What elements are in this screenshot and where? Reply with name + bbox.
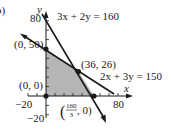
svg-text:3: 3: [70, 111, 74, 119]
y-tick-neg20: −20: [27, 112, 45, 124]
vertex-label-0-0: (0, 0): [19, 79, 43, 92]
linear-programming-graph: b) y x 80 −20 −20 80 3x + 2y = 160 2x + …: [0, 0, 173, 136]
vertex-0-50: [43, 46, 48, 51]
arrowhead-icon: [101, 115, 107, 124]
x-axis-label: x: [123, 82, 129, 94]
panel-label: b): [0, 4, 6, 17]
x-tick-neg20: −20: [15, 98, 33, 110]
vertex-label-0-50: (0, 50): [14, 38, 44, 51]
y-tick-80: 80: [30, 12, 42, 24]
svg-text:, 0): , 0): [77, 104, 92, 117]
line-label-3x-2y: 3x + 2y = 160: [57, 10, 119, 22]
vertex-origin: [43, 93, 48, 98]
line-label-2x-3y: 2x + 3y = 150: [100, 70, 162, 82]
vertex-label-160-3-0: ( 160 3 , 0): [60, 102, 92, 121]
svg-text:160: 160: [66, 102, 77, 110]
vertex-160-3-0: [91, 93, 96, 98]
vertex-label-36-26: (36, 26): [81, 58, 116, 71]
svg-text:(: (: [60, 103, 65, 121]
x-tick-80: 80: [113, 98, 125, 110]
